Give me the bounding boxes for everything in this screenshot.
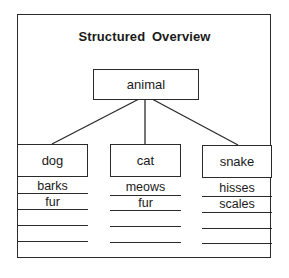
dog-attribute-2: fur (17, 195, 88, 209)
dog-attribute-line-1 (17, 193, 88, 194)
node-snake-label: snake (220, 154, 255, 169)
dog-attribute-line-2 (17, 209, 88, 210)
dog-attribute-line-4 (17, 241, 88, 242)
node-animal-label: animal (127, 77, 165, 92)
cat-attribute-line-3 (110, 226, 181, 227)
node-cat: cat (110, 144, 181, 177)
snake-attribute-1: hisses (202, 181, 272, 195)
diagram-title: Structured Overview (0, 29, 289, 44)
cat-attribute-line-2 (110, 210, 181, 211)
node-cat-label: cat (137, 153, 154, 168)
snake-attribute-line-2 (202, 212, 272, 213)
cat-attribute-1: meows (110, 180, 181, 194)
snake-attribute-2: scales (202, 197, 272, 211)
dog-attribute-1: barks (17, 179, 88, 193)
node-dog: dog (17, 144, 88, 177)
cat-attribute-2: fur (110, 196, 181, 210)
node-dog-label: dog (42, 153, 64, 168)
node-snake: snake (202, 145, 272, 178)
dog-attribute-line-3 (17, 225, 88, 226)
node-animal: animal (93, 69, 199, 100)
snake-attribute-line-4 (202, 243, 272, 244)
overview-frame (17, 14, 271, 258)
cat-attribute-line-4 (110, 242, 181, 243)
snake-attribute-line-3 (202, 228, 272, 229)
